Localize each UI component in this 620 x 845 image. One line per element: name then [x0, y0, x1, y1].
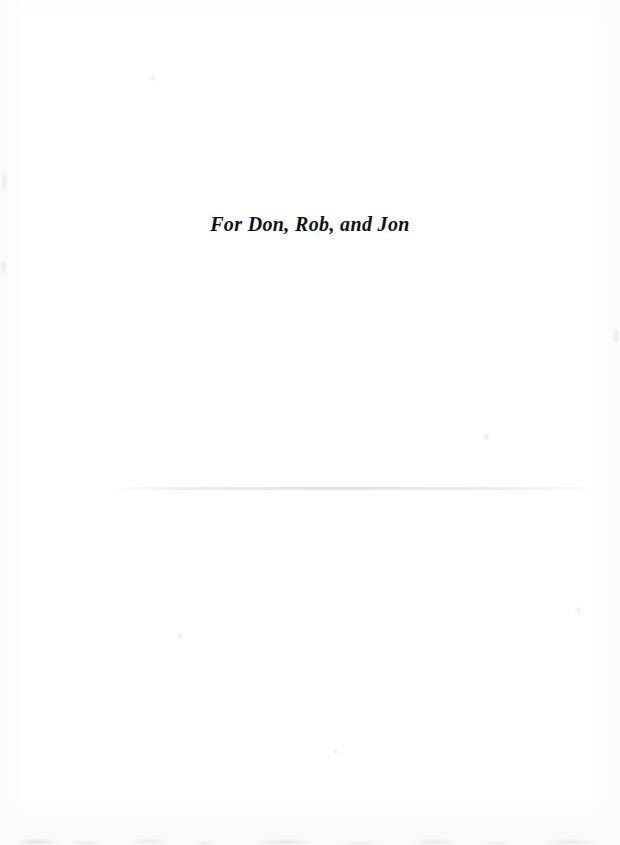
- bottom-edge-noise-artifact: [0, 829, 620, 845]
- paper-texture-overlay: [0, 0, 620, 845]
- scan-speck-artifact: [178, 634, 182, 638]
- scan-speck-artifact: [150, 76, 155, 80]
- dedication-text: For Don, Rob, and Jon: [0, 211, 620, 237]
- scan-edge-artifact: [615, 330, 618, 342]
- scan-streak-artifact: [108, 487, 608, 490]
- scan-speck-artifact: [576, 608, 580, 612]
- dedication-page: For Don, Rob, and Jon: [0, 0, 620, 845]
- scan-speck-artifact: [333, 750, 337, 753]
- scan-edge-artifact: [3, 175, 6, 189]
- scan-speck-artifact: [484, 434, 489, 439]
- scan-edge-artifact: [2, 262, 5, 272]
